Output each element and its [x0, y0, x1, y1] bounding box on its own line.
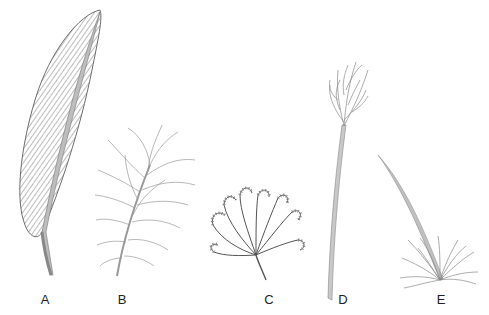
- label-e: E: [431, 292, 451, 308]
- label-a: A: [35, 292, 55, 308]
- feather-b-icon: [95, 125, 195, 276]
- illustration-canvas: [0, 0, 489, 315]
- label-b: B: [112, 292, 132, 308]
- feather-diagram: A B C D E: [0, 0, 489, 315]
- label-c: C: [259, 292, 279, 308]
- feather-e-icon: [378, 155, 478, 288]
- label-d: D: [333, 292, 353, 308]
- feather-d-icon: [328, 62, 368, 300]
- feather-a-icon: [20, 10, 101, 275]
